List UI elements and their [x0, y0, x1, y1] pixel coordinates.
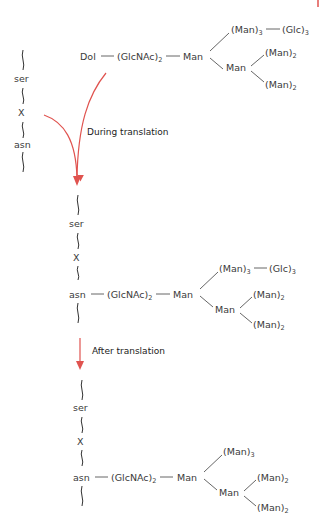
arrowhead-icon [73, 176, 81, 186]
branch-mannose: Man [183, 51, 203, 62]
after-translation-label: After translation [92, 346, 165, 356]
stage3-oligosaccharide: (GlcNAc)2 Man (Man)3 Man (Man)2 (Man)2 [95, 446, 289, 515]
core-glcnac: (GlcNAc)2 [111, 472, 156, 485]
arm-b-mannose: (Man)2 [253, 319, 285, 332]
arm-b-mannose: (Man)2 [257, 502, 289, 515]
glycosylation-diagram: ser X asn Dol (GlcNAc)2 Man (Man)3 (Glc)… [0, 0, 321, 519]
peptide-x: X [73, 252, 80, 263]
stage2-peptide-chain: ser X asn [69, 195, 86, 323]
branch-mannose: Man [173, 289, 193, 300]
peptide-ser: ser [73, 402, 88, 413]
arm-a-mannose: (Man)2 [257, 472, 289, 485]
during-translation-label: During translation [87, 127, 169, 137]
arm-top-glucose: (Glc)3 [282, 24, 309, 37]
peptide-x: X [77, 436, 84, 447]
arm-mid-mannose: Man [215, 304, 235, 315]
dolichol-label: Dol [80, 51, 96, 62]
arm-top-mannose: (Man)3 [223, 446, 255, 459]
arm-top-glucose: (Glc)3 [269, 263, 296, 276]
peptide-asn: asn [14, 139, 31, 150]
peptide-ser: ser [69, 218, 84, 229]
peptide-asn: asn [69, 289, 86, 300]
arm-b-mannose: (Man)2 [265, 79, 297, 92]
stage2-oligosaccharide: (GlcNAc)2 Man (Man)3 (Glc)3 Man (Man)2 (… [91, 263, 296, 332]
arm-top-mannose: (Man)3 [231, 24, 263, 37]
arm-mid-mannose: Man [226, 62, 246, 73]
stage3-peptide-chain: ser X asn [73, 380, 90, 506]
arm-mid-mannose: Man [219, 487, 239, 498]
after-translation-arrow: After translation [76, 338, 165, 370]
during-translation-arrow: During translation [44, 73, 169, 186]
stage1-peptide-chain: ser X asn [14, 50, 31, 172]
arm-top-mannose: (Man)3 [219, 263, 251, 276]
branch-mannose: Man [177, 472, 197, 483]
arm-a-mannose: (Man)2 [253, 289, 285, 302]
arm-a-mannose: (Man)2 [265, 47, 297, 60]
stage1-dolichol-oligosaccharide: Dol (GlcNAc)2 Man (Man)3 (Glc)3 Man (Man… [80, 24, 309, 92]
peptide-ser: ser [14, 73, 29, 84]
peptide-asn: asn [73, 472, 90, 483]
core-glcnac: (GlcNAc)2 [107, 289, 152, 302]
peptide-x: X [18, 107, 25, 118]
core-glcnac: (GlcNAc)2 [117, 51, 162, 64]
arrowhead-icon [76, 361, 84, 370]
